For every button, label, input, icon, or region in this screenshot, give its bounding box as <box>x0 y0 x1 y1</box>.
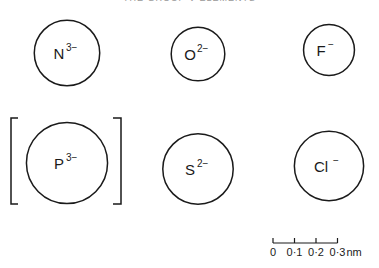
scale-tick-label: 0·3 <box>330 246 346 258</box>
ion-label: F <box>316 42 325 59</box>
left-bracket <box>11 118 18 204</box>
ion-charge: 3− <box>66 152 78 163</box>
ion-s: S2− <box>163 134 233 204</box>
ion-circle <box>26 122 107 203</box>
ion-label: N <box>54 45 65 62</box>
scale-unit: nm <box>347 246 362 258</box>
ion-label: O <box>184 46 196 63</box>
ion-charge: 3− <box>66 42 78 53</box>
ion-charge: − <box>328 39 334 50</box>
ion-circle <box>163 134 233 204</box>
right-bracket <box>113 118 121 204</box>
ion-size-diagram: N3−O2−F−P3−S2−Cl− 00·10·20·3nm <box>0 0 379 268</box>
ion-circle <box>294 131 363 200</box>
ion-circle <box>34 20 99 85</box>
scale-bar: 00·10·20·3nm <box>270 238 362 258</box>
ion-n: N3− <box>34 20 99 85</box>
scale-tick-label: 0·1 <box>287 246 303 258</box>
scale-tick-label: 0·2 <box>308 246 324 258</box>
ion-circle <box>171 27 225 81</box>
ion-label: P <box>54 155 64 172</box>
ion-charge: − <box>333 155 339 166</box>
ion-o: O2− <box>171 27 225 81</box>
ion-charge: 2− <box>197 158 209 169</box>
ion-circle <box>304 25 355 76</box>
ion-label: S <box>185 161 195 178</box>
ion-label: Cl <box>314 158 328 175</box>
ion-p: P3− <box>26 122 107 203</box>
ion-cl: Cl− <box>294 131 363 200</box>
ion-charge: 2− <box>197 43 209 54</box>
ion-f: F− <box>304 25 355 76</box>
scale-tick-label: 0 <box>270 246 276 258</box>
